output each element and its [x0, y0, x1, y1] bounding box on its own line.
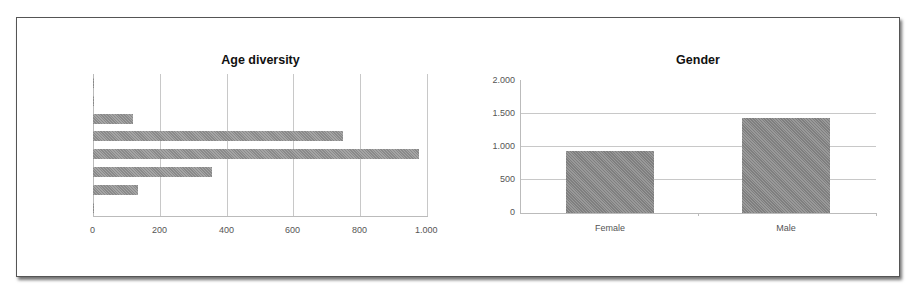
category-label: Male — [742, 223, 830, 233]
y-tick-label: 1.500 — [492, 108, 515, 118]
bar-female — [566, 151, 654, 213]
x-axis-tick — [876, 213, 877, 216]
category-label: Female — [566, 223, 654, 233]
gender-chart-title: Gender — [520, 53, 876, 67]
y-tick-label: 2.000 — [492, 75, 515, 85]
gender-chart: Gender 2.000 1.500 1.000 500 0 Female Ma… — [0, 0, 916, 295]
gridline — [520, 113, 876, 114]
y-tick-label: 1.000 — [492, 141, 515, 151]
y-tick-label: 500 — [500, 174, 515, 184]
x-axis-tick — [698, 213, 699, 216]
bar-male — [742, 118, 830, 213]
y-axis — [520, 80, 521, 214]
y-tick-label: 0 — [510, 207, 515, 217]
